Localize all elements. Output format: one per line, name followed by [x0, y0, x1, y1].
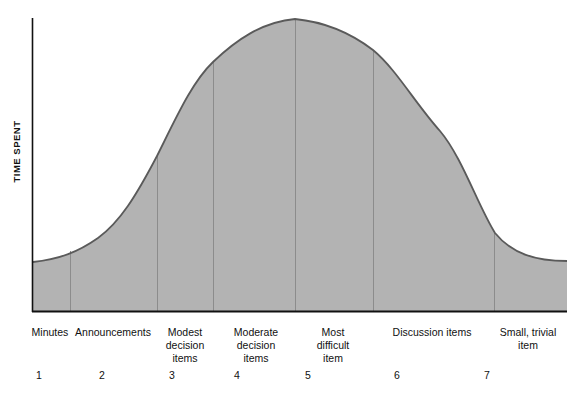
category-label-3-line1: Modest	[148, 326, 222, 339]
category-label-5: Most difficult item	[298, 326, 368, 365]
category-label-7-line2: item	[487, 339, 567, 352]
bell-curve-chart: TIME SPENT Minutes Announcements Modest …	[0, 0, 567, 395]
x-axis-category-labels: Minutes Announcements Modest decision it…	[0, 318, 567, 368]
category-label-3-line3: items	[148, 352, 222, 365]
category-label-5-line2: difficult	[298, 339, 368, 352]
category-label-5-line3: item	[298, 352, 368, 365]
category-label-6: Discussion items	[380, 326, 484, 339]
number-label-4: 4	[217, 369, 257, 381]
number-label-5: 5	[288, 369, 328, 381]
category-label-4-line3: items	[218, 352, 294, 365]
category-label-4: Moderate decision items	[218, 326, 294, 365]
category-label-3-line2: decision	[148, 339, 222, 352]
x-axis-number-labels: 1 2 3 4 5 6 7	[0, 369, 567, 389]
category-label-3: Modest decision items	[148, 326, 222, 365]
plot-area	[0, 0, 567, 320]
category-label-7: Small, trivial item	[487, 326, 567, 352]
category-label-7-line1: Small, trivial	[487, 326, 567, 339]
number-label-3: 3	[152, 369, 192, 381]
category-label-4-line1: Moderate	[218, 326, 294, 339]
time-spent-area-fill	[33, 19, 567, 312]
number-label-6: 6	[377, 369, 417, 381]
category-label-5-line1: Most	[298, 326, 368, 339]
number-label-7: 7	[467, 369, 507, 381]
category-label-4-line2: decision	[218, 339, 294, 352]
number-label-1: 1	[19, 369, 59, 381]
category-label-6-line1: Discussion items	[380, 326, 484, 339]
number-label-2: 2	[82, 369, 122, 381]
